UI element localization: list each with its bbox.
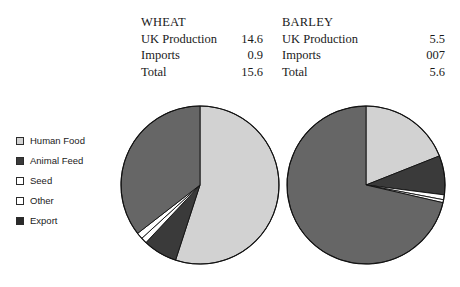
legend-item-other: Other [16, 191, 116, 211]
legend-swatch-icon [16, 217, 24, 225]
legend-item-label: Export [30, 216, 57, 226]
table-row: Total 15.6 [141, 64, 263, 81]
row-label: Total [282, 64, 308, 81]
legend-item-export: Export [16, 211, 116, 231]
legend-swatch-icon [16, 157, 24, 165]
row-label: UK Production [141, 31, 217, 48]
legend-swatch-icon [16, 137, 24, 145]
chart-legend: Human Food Animal Feed Seed Other Export [16, 131, 116, 231]
row-label: UK Production [282, 31, 358, 48]
table-row: UK Production 14.6 [141, 31, 263, 48]
table-row: Imports 007 [282, 47, 445, 64]
row-label: Imports [282, 47, 321, 64]
row-value: 007 [416, 47, 445, 64]
wheat-pie-chart [120, 105, 280, 265]
crop-tables: WHEAT UK Production 14.6 Imports 0.9 Tot… [0, 14, 460, 90]
row-label: Total [141, 64, 167, 81]
legend-item-label: Seed [30, 176, 52, 186]
table-row: Imports 0.9 [141, 47, 263, 64]
barley-table-title: BARLEY [282, 14, 445, 31]
wheat-table: WHEAT UK Production 14.6 Imports 0.9 Tot… [141, 14, 263, 80]
row-value: 5.5 [419, 31, 445, 48]
legend-item-label: Other [30, 196, 54, 206]
legend-swatch-icon [16, 177, 24, 185]
row-value: 5.6 [419, 64, 445, 81]
table-row: Total 5.6 [282, 64, 445, 81]
row-value: 15.6 [231, 64, 263, 81]
row-value: 0.9 [237, 47, 263, 64]
legend-item-human-food: Human Food [16, 131, 116, 151]
legend-swatch-icon [16, 197, 24, 205]
legend-item-label: Animal Feed [30, 156, 83, 166]
row-label: Imports [141, 47, 180, 64]
table-row: UK Production 5.5 [282, 31, 445, 48]
legend-item-label: Human Food [30, 136, 85, 146]
row-value: 14.6 [231, 31, 263, 48]
barley-pie-chart [286, 105, 446, 265]
legend-item-animal-feed: Animal Feed [16, 151, 116, 171]
wheat-table-title: WHEAT [141, 14, 263, 31]
legend-item-seed: Seed [16, 171, 116, 191]
barley-table: BARLEY UK Production 5.5 Imports 007 Tot… [282, 14, 445, 80]
